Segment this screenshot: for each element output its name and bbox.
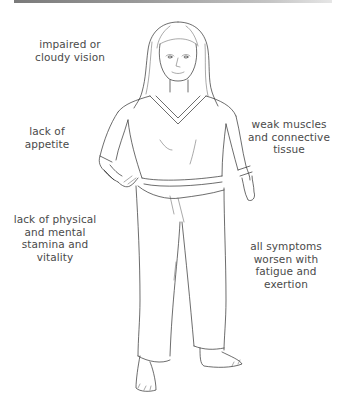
label-lack-of-appetite: lack of appetite bbox=[12, 125, 82, 150]
label-impaired-vision: impaired or cloudy vision bbox=[20, 38, 120, 63]
label-weak-muscles: weak muscles and connective tissue bbox=[240, 118, 338, 156]
face bbox=[159, 44, 196, 81]
hair bbox=[134, 22, 178, 108]
label-symptoms-worsen: all symptoms worsen with fatigue and exe… bbox=[240, 240, 332, 290]
label-lack-of-stamina: lack of physical and mental stamina and … bbox=[4, 213, 106, 263]
